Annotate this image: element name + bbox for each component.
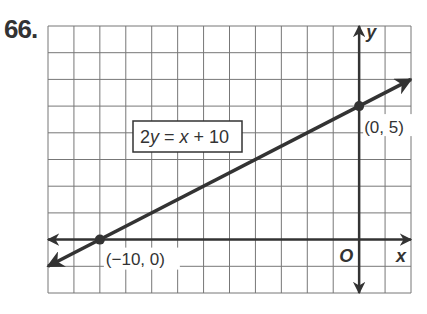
coordinate-plane: (−10, 0)(0, 5)2y = x + 10yxO — [0, 0, 427, 314]
x-axis-label: x — [395, 246, 407, 266]
point-marker — [95, 235, 105, 245]
origin-label: O — [339, 246, 353, 266]
equation-label: 2y = x + 10 — [140, 127, 229, 147]
point-marker — [354, 101, 364, 111]
point-label-y-intercept: (0, 5) — [364, 118, 404, 137]
y-axis-label: y — [365, 22, 377, 42]
point-label-x-intercept: (−10, 0) — [106, 250, 165, 269]
